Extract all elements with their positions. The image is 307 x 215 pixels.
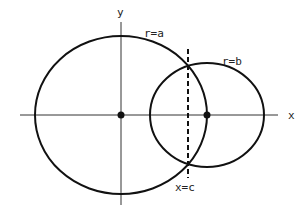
circle-a-label: r=a: [144, 27, 164, 40]
x-axis-label: x: [288, 109, 295, 122]
y-axis-label: y: [117, 6, 124, 19]
center-dot-a: [118, 112, 125, 119]
center-dot-b: [204, 112, 211, 119]
diagram-canvas: y x r=a r=b x=c: [0, 0, 307, 215]
line-label: x=c: [175, 181, 195, 194]
circle-b-label: r=b: [222, 55, 242, 68]
